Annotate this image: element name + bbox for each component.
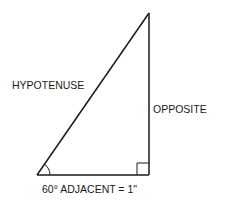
adjacent-label: 60° ADJACENT = 1": [42, 183, 137, 195]
angle-arc-icon: [44, 164, 50, 175]
hypotenuse-label: HYPOTENUSE: [12, 79, 84, 91]
triangle-diagram: HYPOTENUSE OPPOSITE 60° ADJACENT = 1": [0, 0, 225, 207]
opposite-label: OPPOSITE: [153, 103, 207, 115]
right-angle-marker-icon: [137, 163, 149, 175]
hypotenuse-edge: [37, 13, 149, 175]
